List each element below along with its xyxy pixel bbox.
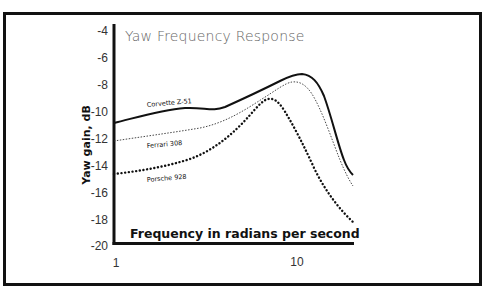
- series-porsche-928: [114, 99, 353, 222]
- yaw-chart: Yaw Frequency Response -4 -6 -8 -10 -12 …: [0, 0, 485, 292]
- x-tick: 10: [290, 255, 304, 269]
- x-tick: 1: [113, 256, 120, 270]
- x-axis-label: Frequency in radians per second: [130, 226, 360, 241]
- y-tick: -14: [91, 159, 109, 173]
- y-tick: -20: [91, 239, 109, 253]
- y-tick: -8: [97, 78, 108, 92]
- chart-title: Yaw Frequency Response: [125, 28, 305, 44]
- y-tick-labels: -4 -6 -8 -10 -12 -14 -16 -18 -20: [91, 24, 109, 253]
- label-ferrari: Ferrari 308: [146, 139, 182, 150]
- y-tick: -4: [97, 24, 108, 38]
- series-ferrari-308: [114, 82, 353, 186]
- y-tick: -10: [91, 105, 109, 119]
- y-axis-label: Yaw gain, dB: [80, 105, 93, 186]
- y-tick: -16: [91, 186, 109, 200]
- y-tick: -18: [91, 213, 109, 227]
- label-porsche: Porsche 928: [146, 173, 186, 184]
- y-tick: -6: [97, 51, 108, 65]
- series-corvette-z51: [114, 74, 353, 175]
- y-tick: -12: [91, 132, 109, 146]
